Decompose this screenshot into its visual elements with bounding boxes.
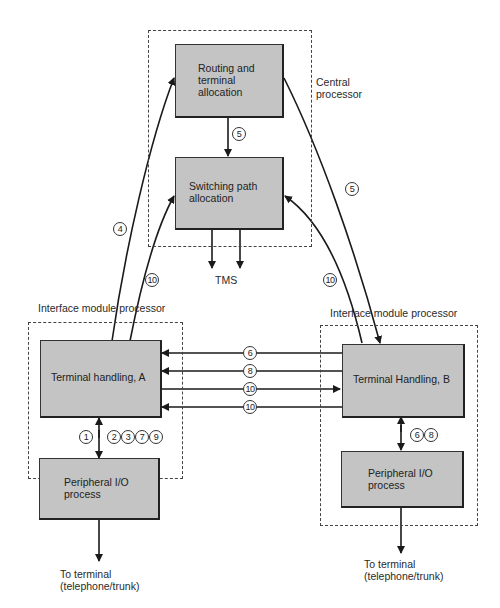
module-a-terminal-label: To terminal (telephone/trunk) xyxy=(60,568,139,592)
module-a-label: Interface module processor xyxy=(38,302,165,314)
msg-badge-h-10b: 10 xyxy=(243,400,257,414)
msg-badge-10-a-to-switch: 10 xyxy=(145,273,159,287)
peripheral-b-label: Peripheral I/O process xyxy=(368,467,433,491)
msg-badge-h-8: 8 xyxy=(243,364,257,378)
msg-badge-4: 4 xyxy=(113,222,127,236)
msg-badge-1: 1 xyxy=(79,430,93,444)
msg-badge-b-6: 6 xyxy=(410,428,424,442)
msg-badge-5-internal: 5 xyxy=(232,127,246,141)
module-b-label: Interface module processor xyxy=(330,307,457,319)
msg-badge-9: 9 xyxy=(149,430,163,444)
msg-badge-5-to-b: 5 xyxy=(345,182,359,196)
msg-badge-3: 3 xyxy=(121,430,135,444)
central-processor-label: Central processor xyxy=(316,76,362,100)
routing-block-label: Routing and terminal allocation xyxy=(198,62,255,98)
tms-label: TMS xyxy=(215,274,237,286)
msg-badge-10-b-to-switch: 10 xyxy=(323,273,337,287)
msg-badge-b-8: 8 xyxy=(424,428,438,442)
terminal-handling-b-block: Terminal Handling, B xyxy=(342,344,465,418)
peripheral-io-a-block: Peripheral I/O process xyxy=(39,458,160,520)
peripheral-a-label: Peripheral I/O process xyxy=(64,476,129,500)
terminal-handling-a-block: Terminal handling, A xyxy=(40,340,162,418)
switching-path-allocation-block: Switching path allocation xyxy=(175,157,284,230)
terminal-b-label: Terminal Handling, B xyxy=(353,373,450,385)
switching-block-label: Switching path allocation xyxy=(189,180,257,204)
peripheral-io-b-block: Peripheral I/O process xyxy=(341,451,464,508)
msg-badge-7: 7 xyxy=(135,430,149,444)
routing-terminal-allocation-block: Routing and terminal allocation xyxy=(175,44,284,118)
msg-badge-h-6: 6 xyxy=(243,346,257,360)
msg-badge-2: 2 xyxy=(107,430,121,444)
module-b-terminal-label: To terminal (telephone/trunk) xyxy=(364,558,443,582)
msg-badge-h-10a: 10 xyxy=(243,382,257,396)
terminal-a-label: Terminal handling, A xyxy=(51,371,146,383)
